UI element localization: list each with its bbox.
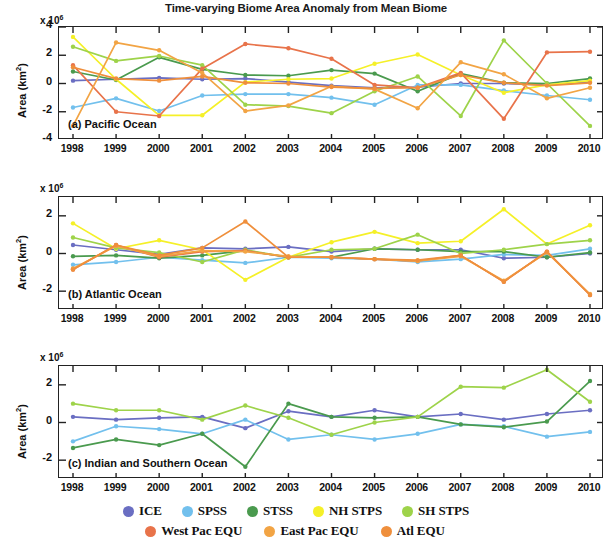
series-point (114, 243, 118, 247)
series-point (415, 232, 419, 236)
series-point (114, 253, 118, 257)
series-point (286, 416, 290, 420)
series-point (157, 238, 161, 242)
legend-item-sh-stps[interactable]: SH STPS (402, 503, 469, 519)
series-point (71, 263, 75, 267)
series-point (71, 401, 75, 405)
series-point (157, 253, 161, 257)
series-point (71, 105, 75, 109)
legend-item-ice[interactable]: ICE (123, 503, 162, 519)
series-point (545, 434, 549, 438)
series-point (71, 35, 75, 39)
series-point (502, 117, 506, 121)
series-point (588, 124, 592, 128)
series-point (329, 255, 333, 259)
legend-item-west-pac-equ[interactable]: West Pac EQU (145, 523, 242, 539)
legend-item-stss[interactable]: STSS (247, 503, 293, 519)
series-point (459, 60, 463, 64)
series-point (157, 427, 161, 431)
series-point (329, 240, 333, 244)
x-tick-label: 2001 (181, 142, 221, 154)
panel-label-c: (c) Indian and Southern Ocean (68, 457, 228, 469)
legend-marker-icon (182, 506, 193, 517)
x-tick-label: 2006 (397, 312, 437, 324)
x-tick-label: 2009 (526, 312, 566, 324)
x-tick-label: 2004 (311, 142, 351, 154)
y-tick-label: 0 (18, 75, 52, 87)
legend-row-biomes: ICESPSSSTSSNH STPSSH STPS (0, 503, 612, 519)
series-point (545, 249, 549, 253)
x-tick-label: 2010 (569, 481, 609, 493)
series-point (71, 415, 75, 419)
series-point (502, 38, 506, 42)
x-tick-label: 2000 (138, 312, 178, 324)
series-point (114, 110, 118, 114)
x-tick-label: 1998 (52, 142, 92, 154)
x-tick-label: 2009 (526, 142, 566, 154)
series-point (588, 86, 592, 90)
x-tick-label: 2007 (440, 312, 480, 324)
series-point (114, 437, 118, 441)
x-tick-label: 1999 (95, 312, 135, 324)
series-point (588, 250, 592, 254)
series-point (459, 83, 463, 87)
series-point (114, 40, 118, 44)
series-point (588, 81, 592, 85)
series-point (545, 242, 549, 246)
series-point (114, 96, 118, 100)
series-point (114, 260, 118, 264)
y-tick-label: 2 (18, 207, 52, 219)
series-point (588, 379, 592, 383)
x-tick-label: 2003 (267, 312, 307, 324)
series-point (200, 432, 204, 436)
legend-item-east-pac-equ[interactable]: East Pac EQU (264, 523, 358, 539)
series-point (502, 417, 506, 421)
series-line (73, 209, 590, 280)
legend-item-spss[interactable]: SPSS (182, 503, 227, 519)
legend-label: NH STPS (329, 503, 382, 519)
series-point (415, 248, 419, 252)
y-tick-label: -2 (18, 451, 52, 463)
legend-item-nh-stps[interactable]: NH STPS (313, 503, 382, 519)
y-tick-label: 0 (18, 414, 52, 426)
y-tick-label: 2 (18, 376, 52, 388)
legend-marker-icon (123, 506, 134, 517)
x-tick-label: 2001 (181, 481, 221, 493)
series-point (286, 401, 290, 405)
series-point (200, 417, 204, 421)
x-tick-label: 2005 (354, 481, 394, 493)
x-tick-label: 2006 (397, 142, 437, 154)
series-point (200, 260, 204, 264)
y-tick-label: -4 (18, 131, 52, 143)
series-line (73, 420, 590, 442)
series-point (545, 412, 549, 416)
series-point (243, 81, 247, 85)
legend-marker-icon (247, 506, 258, 517)
series-point (71, 221, 75, 225)
legend-item-atl-equ[interactable]: Atl EQU (381, 523, 445, 539)
y-tick-label: 0 (18, 245, 52, 257)
legend-label: ICE (139, 503, 162, 519)
series-point (459, 239, 463, 243)
series-point (114, 424, 118, 428)
series-point (114, 408, 118, 412)
series-point (157, 443, 161, 447)
series-line (73, 370, 590, 435)
series-point (459, 114, 463, 118)
series-point (200, 246, 204, 250)
series-point (372, 230, 376, 234)
x-tick-label: 1999 (95, 481, 135, 493)
x-tick-label: 1999 (95, 142, 135, 154)
series-point (286, 245, 290, 249)
x-tick-label: 2005 (354, 142, 394, 154)
series-point (200, 93, 204, 97)
series-point (243, 249, 247, 253)
series-point (372, 416, 376, 420)
panel-label-b: (b) Atlantic Ocean (68, 288, 162, 300)
series-point (243, 102, 247, 106)
series-point (372, 62, 376, 66)
panel-label-a: (a) Pacific Ocean (68, 118, 157, 130)
x-tick-label: 1998 (52, 312, 92, 324)
series-point (243, 417, 247, 421)
legend-marker-icon (264, 526, 275, 537)
